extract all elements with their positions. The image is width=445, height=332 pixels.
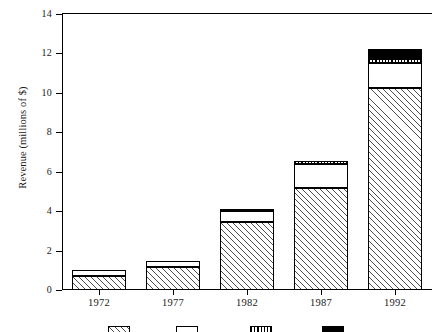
- legend-swatch: [250, 326, 272, 332]
- y-tick-label: 14: [0, 9, 52, 19]
- legend-item-1[interactable]: [108, 326, 130, 332]
- legend-item-4[interactable]: [322, 326, 344, 332]
- x-tick-label: 1992: [365, 297, 425, 308]
- legend-item-2[interactable]: [176, 326, 198, 332]
- bar-segment-series-1[interactable]: [72, 276, 126, 290]
- x-tick-label: 1982: [217, 297, 277, 308]
- bar-segment-series-4[interactable]: [368, 49, 422, 58]
- legend-swatch: [108, 326, 130, 332]
- legend-swatch: [176, 326, 198, 332]
- bar-segment-series-3[interactable]: [220, 209, 274, 211]
- x-tick-label: 1987: [291, 297, 351, 308]
- y-tick-label: 0: [0, 285, 52, 295]
- y-tick: [56, 290, 62, 291]
- y-tick: [56, 14, 62, 15]
- bar-segment-series-1[interactable]: [368, 88, 422, 290]
- bar-segment-series-3[interactable]: [368, 59, 422, 63]
- legend-swatch: [322, 326, 344, 332]
- bar-1982[interactable]: [220, 0, 274, 291]
- bar-1992[interactable]: [368, 0, 422, 291]
- y-tick: [56, 172, 62, 173]
- y-tick: [56, 53, 62, 54]
- bar-segment-series-2[interactable]: [72, 270, 126, 276]
- bar-segment-series-2[interactable]: [368, 63, 422, 88]
- y-tick: [56, 93, 62, 94]
- x-tick-label: 1977: [143, 297, 203, 308]
- bar-1977[interactable]: [146, 0, 200, 291]
- x-tick-label: 1972: [69, 297, 129, 308]
- chart-legend: [0, 326, 445, 332]
- bar-segment-series-2[interactable]: [220, 211, 274, 222]
- bar-segment-series-2[interactable]: [146, 261, 200, 267]
- bar-segment-series-1[interactable]: [294, 188, 348, 290]
- bar-1972[interactable]: [72, 0, 126, 291]
- bar-segment-series-1[interactable]: [220, 222, 274, 290]
- bar-segment-series-2[interactable]: [294, 164, 348, 189]
- y-tick: [56, 132, 62, 133]
- y-tick: [56, 211, 62, 212]
- bar-segment-series-3[interactable]: [294, 161, 348, 164]
- bar-segment-series-1[interactable]: [146, 267, 200, 290]
- y-tick: [56, 251, 62, 252]
- y-axis-title: Revenue (millions of $): [17, 28, 28, 248]
- legend-item-3[interactable]: [250, 326, 272, 332]
- bar-1987[interactable]: [294, 0, 348, 291]
